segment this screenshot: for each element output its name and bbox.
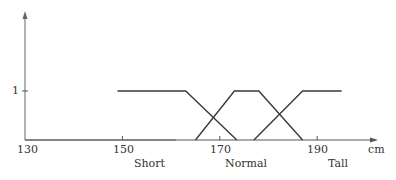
tick-label-190: 190 xyxy=(307,143,328,156)
category-label-tall: Tall xyxy=(328,157,348,170)
category-label-normal: Normal xyxy=(225,157,267,170)
category-label-short: Short xyxy=(134,157,165,170)
series-short xyxy=(118,91,237,140)
tick-label-130: 130 xyxy=(17,143,38,156)
series-tall xyxy=(254,91,342,140)
axes xyxy=(23,11,177,140)
tick-label-150: 150 xyxy=(113,143,134,156)
unit-label: cm xyxy=(368,143,385,156)
x-axis-arrow-icon xyxy=(370,138,378,143)
membership-chart xyxy=(0,0,396,180)
y-tick-label-1: 1 xyxy=(12,84,19,97)
plot-lines xyxy=(22,91,342,140)
y-axis-arrow-icon xyxy=(23,11,28,19)
tick-label-170: 170 xyxy=(210,143,231,156)
